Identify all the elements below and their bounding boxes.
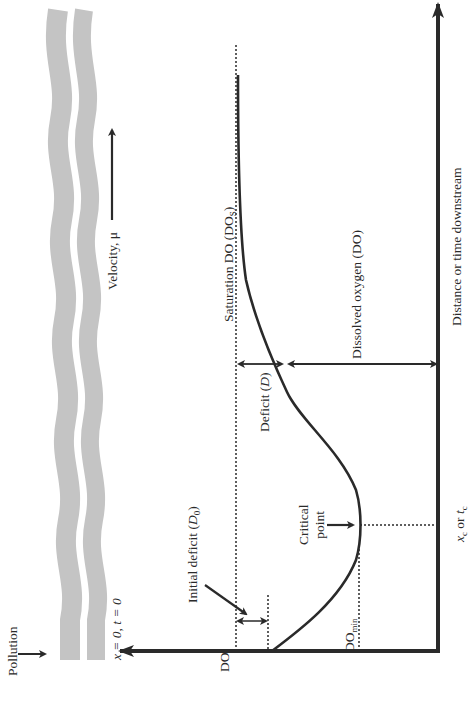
deficit-text: Deficit ( [257, 387, 272, 432]
origin-text: x = 0, t = 0 [109, 598, 124, 660]
do-min-label: DOmin [343, 618, 359, 652]
saturation-label: Saturation DO (DOS) [222, 207, 238, 322]
origin-label: x = 0, t = 0 [110, 598, 124, 660]
tc-sub: c [459, 506, 469, 510]
critical-line1: Critical [296, 505, 312, 546]
pollution-label: Pollution [6, 626, 20, 676]
dissolved-oxygen-label: Dissolved oxygen (DO) [350, 230, 364, 359]
xc-var: x [452, 536, 467, 542]
do-min-text: DO [342, 633, 357, 653]
xc-or: or [452, 514, 467, 532]
deficit-label: Deficit (D) [258, 372, 272, 432]
initial-deficit-pointer-icon [205, 585, 246, 614]
initial-deficit-text: Initial deficit ( [185, 525, 200, 603]
tc-var: t [452, 510, 467, 514]
initial-deficit-end: ) [185, 506, 200, 511]
xc-sub: c [459, 532, 469, 536]
initial-deficit-sub: 0 [192, 511, 202, 516]
do-min-sub: min [349, 618, 359, 632]
velocity-label: Velocity, μ [106, 232, 120, 290]
initial-deficit-var: D [185, 515, 200, 525]
initial-deficit-label: Initial deficit (D0) [186, 506, 202, 603]
saturation-text: Saturation DO (DO [221, 216, 236, 322]
critical-point-label: Critical point [296, 505, 327, 546]
distance-axis-label: Distance or time downstream [450, 167, 464, 326]
do-sag-curve [238, 75, 361, 651]
do-axis-label: DO [218, 653, 232, 673]
do-sag-diagram [0, 0, 472, 712]
deficit-end: ) [257, 372, 272, 377]
deficit-var: D [257, 377, 272, 387]
saturation-sub: S [228, 211, 238, 216]
saturation-end: ) [221, 207, 236, 212]
river-icon [56, 10, 98, 660]
critical-line2: point [312, 505, 328, 546]
xc-tc-label: xc or tc [453, 506, 469, 542]
